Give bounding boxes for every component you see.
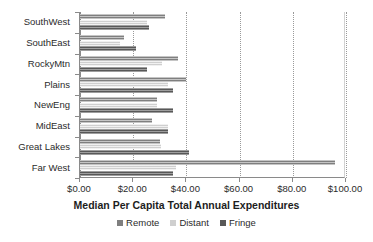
gridline-60	[240, 12, 241, 178]
y-axis-tick-4	[75, 95, 79, 96]
x-axis-tick-40	[185, 178, 186, 182]
y-axis-tick-end	[75, 178, 79, 179]
x-axis-title: Median Per Capita Total Annual Expenditu…	[0, 199, 373, 211]
bar-fringe-southwest	[80, 25, 149, 30]
bar-remote-southeast	[80, 35, 124, 40]
bar-distant-southeast	[80, 41, 120, 46]
bar-remote-neweng	[80, 97, 157, 102]
bar-distant-mideast	[80, 124, 168, 129]
bar-distant-neweng	[80, 103, 157, 108]
x-axis-tick-80	[292, 178, 293, 182]
bar-fringe-rockymtn	[80, 67, 147, 72]
bar-fringe-neweng	[80, 108, 173, 113]
y-axis-label-rockymtn: RockyMtn	[0, 59, 70, 69]
x-axis-ticklabel-80: $80.00	[262, 183, 322, 194]
bar-remote-mideast	[80, 118, 152, 123]
y-axis-label-far-west: Far West	[0, 163, 70, 173]
y-axis-label-southwest: SouthWest	[0, 17, 70, 27]
bar-remote-great-lakes	[80, 139, 160, 144]
legend-item-remote[interactable]: Remote	[117, 218, 159, 228]
x-axis-ticklabel-0: $0.00	[49, 183, 109, 194]
bar-remote-rockymtn	[80, 56, 178, 61]
y-axis-label-neweng: NewEng	[0, 100, 70, 110]
bar-distant-rockymtn	[80, 61, 162, 66]
bar-distant-great-lakes	[80, 144, 161, 149]
x-axis-tick-20	[132, 178, 133, 182]
bar-chart: SouthWestSouthEastRockyMtnPlainsNewEngMi…	[0, 0, 373, 242]
x-axis-ticklabel-20: $20.00	[102, 183, 162, 194]
legend-label-remote: Remote	[126, 218, 159, 228]
y-axis-tick-3	[75, 74, 79, 75]
bar-remote-southwest	[80, 14, 165, 19]
legend-label-fringe: Fringe	[229, 218, 256, 228]
y-axis-label-southeast: SouthEast	[0, 38, 70, 48]
gridline-80	[293, 12, 294, 178]
legend-item-distant[interactable]: Distant	[170, 218, 209, 228]
bar-fringe-great-lakes	[80, 150, 189, 155]
bar-fringe-far-west	[80, 171, 173, 176]
y-axis-tick-1	[75, 33, 79, 34]
legend-swatch-fringe-icon	[220, 220, 226, 226]
gridline-100	[346, 12, 347, 178]
chart-legend: RemoteDistantFringe	[0, 218, 373, 228]
y-axis-label-plains: Plains	[0, 80, 70, 90]
bar-remote-plains	[80, 77, 186, 82]
x-axis-ticklabel-100: $100.00	[315, 183, 373, 194]
bar-distant-plains	[80, 82, 168, 87]
x-axis-tick-60	[239, 178, 240, 182]
bar-fringe-plains	[80, 88, 173, 93]
bar-fringe-mideast	[80, 129, 168, 134]
bar-distant-southwest	[80, 20, 147, 25]
bar-fringe-southeast	[80, 46, 136, 51]
y-axis-labels: SouthWestSouthEastRockyMtnPlainsNewEngMi…	[0, 12, 75, 178]
y-axis-label-great-lakes: Great Lakes	[0, 142, 70, 152]
y-axis-tick-5	[75, 116, 79, 117]
y-axis-tick-2	[75, 54, 79, 55]
x-axis-tick-100	[345, 178, 346, 182]
plot-area	[79, 12, 345, 178]
y-axis-label-mideast: MidEast	[0, 121, 70, 131]
x-axis-ticklabel-60: $60.00	[209, 183, 269, 194]
x-axis-tick-0	[79, 178, 80, 182]
x-axis-ticklabel-40: $40.00	[155, 183, 215, 194]
bar-distant-far-west	[80, 165, 176, 170]
legend-swatch-distant-icon	[170, 220, 176, 226]
legend-swatch-remote-icon	[117, 220, 123, 226]
legend-label-distant: Distant	[179, 218, 209, 228]
bar-remote-far-west	[80, 160, 335, 165]
legend-item-fringe[interactable]: Fringe	[220, 218, 256, 228]
y-axis-tick-6	[75, 137, 79, 138]
y-axis-tick-7	[75, 157, 79, 158]
y-axis-tick-0	[75, 12, 79, 13]
